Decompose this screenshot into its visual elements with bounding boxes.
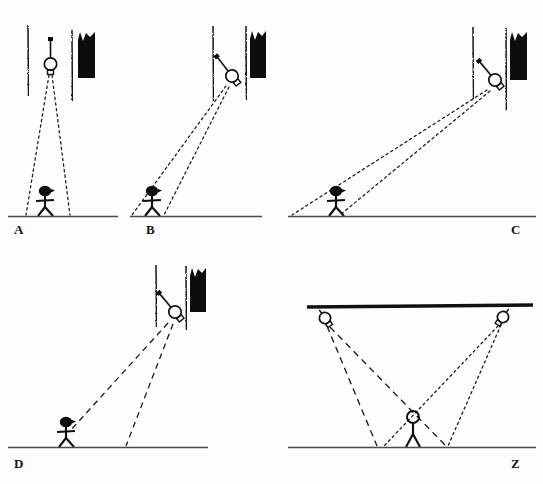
panel-label-z: Z: [511, 456, 520, 472]
dark-curtain-block-d: [190, 268, 206, 312]
diagram-svg: [0, 0, 543, 484]
wall-left-a: [28, 26, 29, 96]
dark-curtain-block-a: [78, 32, 95, 78]
lamp-a: [44, 37, 56, 75]
observer-figure-b: [143, 186, 162, 216]
wall-left-d: [156, 265, 157, 327]
panel-z: [288, 305, 536, 448]
wall-left-c: [473, 27, 474, 100]
panel-b: [130, 26, 266, 217]
dark-curtain-block-b: [250, 31, 266, 78]
panel-d: [8, 265, 208, 448]
light-rays-left-z: [327, 326, 446, 446]
lamp-c: [473, 55, 507, 92]
panel-label-b: B: [146, 222, 155, 238]
ceiling-bar-z: [307, 305, 533, 307]
light-rays-right-z: [384, 325, 501, 446]
panel-label-a: A: [14, 222, 24, 238]
panel-label-d: D: [14, 456, 24, 472]
light-rays-c: [292, 90, 490, 215]
lamp-b: [210, 51, 243, 88]
dark-curtain-block-c: [510, 32, 527, 80]
figure-canvas: · · · ·: [0, 0, 543, 484]
panel-a: [8, 26, 118, 217]
light-rays-d: [70, 323, 173, 446]
panel-label-c: C: [511, 222, 521, 238]
lamp-left-z: [315, 307, 335, 329]
observer-figure-a: [36, 186, 55, 216]
lamp-d: [153, 287, 187, 324]
observer-figure-d: [57, 417, 76, 447]
lamp-right-z: [493, 306, 513, 328]
wall-left-b: [213, 26, 214, 102]
panel-c: [288, 27, 536, 217]
faint-header-marks: · · · ·: [478, 1, 537, 10]
light-rays-b: [132, 86, 229, 215]
